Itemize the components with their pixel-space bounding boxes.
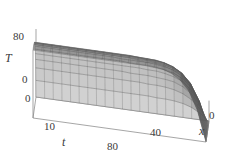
x-axis-tick-80: 80: [107, 141, 118, 152]
t-axis-title: T: [5, 52, 12, 64]
surface-plot-canvas: [0, 0, 229, 162]
t-axis-tick-80: 80: [13, 31, 24, 42]
origin-tick-0: 0: [25, 93, 31, 104]
time-axis-tick-10: 10: [44, 121, 55, 132]
surface-plot-figure: 80 0 T 10 t 0 80 40 0 x: [0, 0, 229, 162]
x-axis-tick-0: 0: [209, 110, 215, 121]
time-axis-title: t: [62, 136, 65, 148]
surface-mesh: [33, 42, 209, 142]
t-axis-tick-0: 0: [22, 74, 28, 85]
x-axis-title: x: [199, 125, 204, 137]
x-axis-tick-40: 40: [150, 127, 161, 138]
